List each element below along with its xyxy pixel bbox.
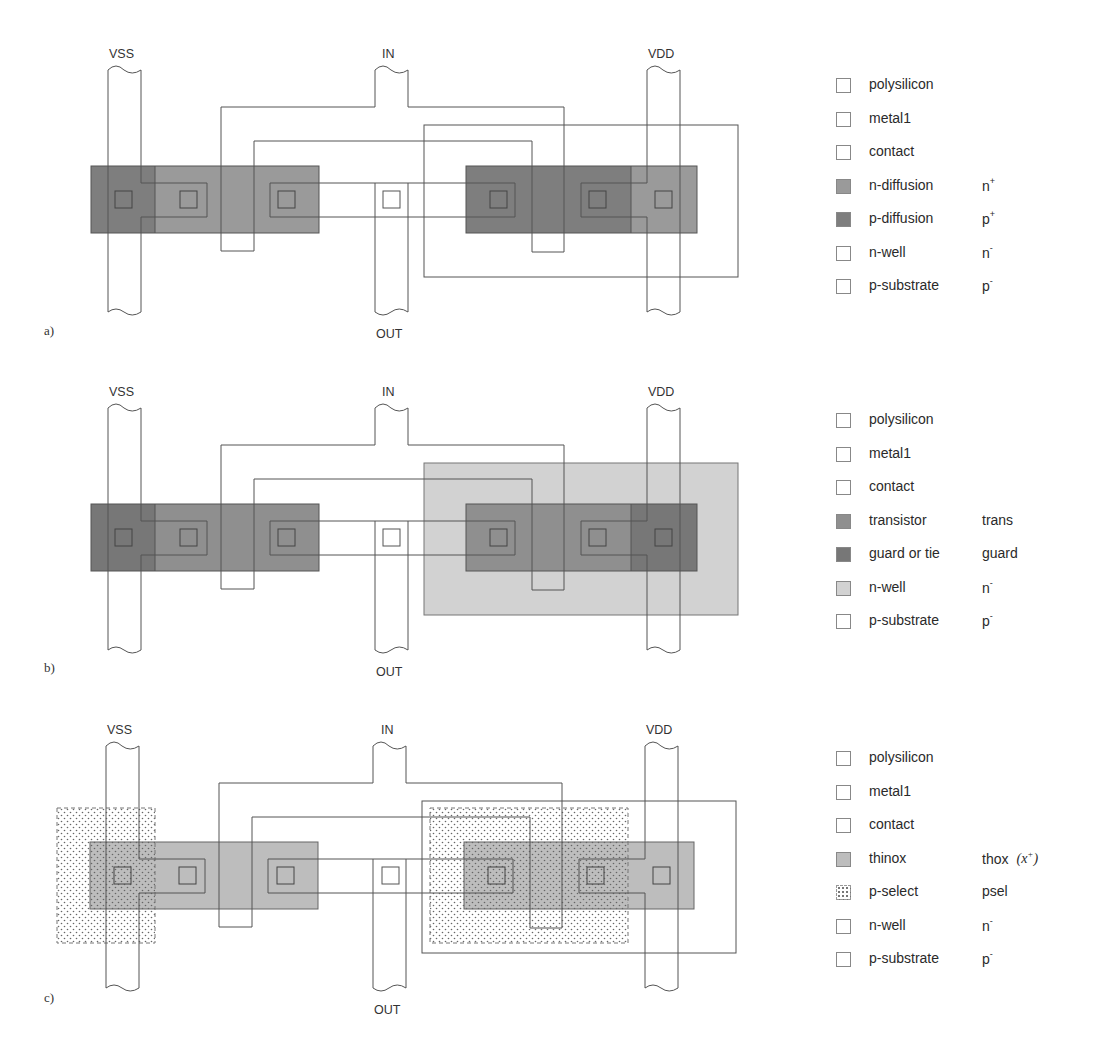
vdd-label: VDD [648, 385, 674, 399]
legend-name: p-substrate [869, 950, 939, 966]
vdd-label: VDD [648, 47, 674, 61]
in-label: IN [382, 47, 395, 61]
legend-abbreviation: trans [982, 512, 1013, 528]
legend-abbreviation: p- [982, 612, 993, 629]
legend-item-contact: contact [836, 816, 1096, 836]
out-label: OUT [376, 327, 403, 338]
legend-name: polysilicon [869, 411, 934, 427]
legend-swatch [836, 514, 851, 529]
legend-abbreviation: n- [982, 917, 993, 934]
legend-swatch [836, 246, 851, 261]
legend-item-metal1: metal1 [836, 445, 1096, 465]
panel-c: VSS IN VDD OUT c) polysiliconmetal1conta… [0, 676, 1103, 1014]
legend-name: p-substrate [869, 277, 939, 293]
legend-name: p-select [869, 883, 918, 899]
legend-abbreviation: n- [982, 244, 993, 261]
legend-item-p-diffusion: p-diffusionp+ [836, 210, 1096, 230]
legend-swatch [836, 447, 851, 462]
legend-item-n-well: n-welln- [836, 244, 1096, 264]
out-label: OUT [374, 1003, 401, 1014]
legend-name: polysilicon [869, 76, 934, 92]
legend-abbreviation: thox(x+) [982, 850, 1038, 868]
legend-swatch [836, 919, 851, 934]
legend-name: p-diffusion [869, 210, 933, 226]
legend-name: contact [869, 816, 914, 832]
p-select-right [430, 808, 628, 943]
legend-item-p-substrate: p-substratep- [836, 277, 1096, 297]
layout-diagram-c: VSS IN VDD OUT [0, 676, 800, 1014]
legend-name: metal1 [869, 783, 911, 799]
legend-abbreviation: guard [982, 545, 1018, 561]
guard-right [631, 504, 697, 571]
legend-name: n-well [869, 579, 906, 595]
panel-a: VSS IN VDD OUT a) polysiliconmetal1conta… [0, 0, 1103, 338]
legend-swatch [836, 547, 851, 562]
legend-abbreviation: p- [982, 950, 993, 967]
legend-item-contact: contact [836, 478, 1096, 498]
legend-item-p-substrate: p-substratep- [836, 612, 1096, 632]
contact [383, 529, 400, 546]
legend-item-n-well: n-welln- [836, 917, 1096, 937]
legend-abbreviation: n- [982, 579, 993, 596]
legend-item-n-well: n-welln- [836, 579, 1096, 599]
legend-swatch [836, 112, 851, 127]
legend-swatch [836, 212, 851, 227]
in-label: IN [382, 385, 395, 399]
contact [382, 867, 399, 884]
legend-item-thinox: thinoxthox(x+) [836, 850, 1096, 870]
p-diffusion-tie-left [91, 166, 155, 233]
legend-abbreviation: p- [982, 277, 993, 294]
legend-swatch [836, 614, 851, 629]
legend-item-polysilicon: polysilicon [836, 749, 1096, 769]
legend-swatch [836, 751, 851, 766]
legend-item-metal1: metal1 [836, 783, 1096, 803]
legend-swatch [836, 581, 851, 596]
in-label: IN [381, 723, 394, 737]
legend-item-n-diffusion: n-diffusionn+ [836, 177, 1096, 197]
legend-name: thinox [869, 850, 906, 866]
contact [383, 191, 400, 208]
legend-swatch [836, 818, 851, 833]
legend-name: metal1 [869, 445, 911, 461]
guard-left [91, 504, 155, 571]
legend-item-p-substrate: p-substratep- [836, 950, 1096, 970]
panel-label-c: c) [44, 990, 54, 1006]
legend-swatch [836, 78, 851, 93]
legend-swatch [836, 413, 851, 428]
legend-item-polysilicon: polysilicon [836, 411, 1096, 431]
legend-abbreviation: p+ [982, 210, 995, 227]
legend-item-polysilicon: polysilicon [836, 76, 1096, 96]
vdd-label: VDD [646, 723, 672, 737]
legend-item-transistor: transistortrans [836, 512, 1096, 532]
legend-item-contact: contact [836, 143, 1096, 163]
legend-name: polysilicon [869, 749, 934, 765]
panel-label-b: b) [44, 660, 55, 676]
legend-abbreviation: psel [982, 883, 1008, 899]
legend-name: contact [869, 143, 914, 159]
vss-label: VSS [107, 723, 132, 737]
legend-name: n-diffusion [869, 177, 933, 193]
panel-label-a: a) [44, 323, 54, 339]
legend-item-metal1: metal1 [836, 110, 1096, 130]
legend-item-p-select: p-selectpsel [836, 883, 1096, 903]
legend-swatch [836, 952, 851, 967]
panel-b: VSS IN VDD OUT b) polysiliconmetal1conta… [0, 338, 1103, 676]
vss-label: VSS [109, 47, 134, 61]
legend-name: metal1 [869, 110, 911, 126]
legend-swatch [836, 852, 851, 867]
legend-swatch [836, 279, 851, 294]
legend-name: n-well [869, 917, 906, 933]
legend-swatch [836, 885, 851, 900]
layout-diagram-a: VSS IN VDD OUT [0, 0, 800, 338]
legend-name: p-substrate [869, 612, 939, 628]
n-diffusion-tie-right [631, 166, 697, 233]
legend-swatch [836, 145, 851, 160]
legend-abbreviation: n+ [982, 177, 995, 194]
legend-name: guard or tie [869, 545, 940, 561]
legend-name: contact [869, 478, 914, 494]
out-label: OUT [376, 665, 403, 676]
legend-item-guard-or-tie: guard or tieguard [836, 545, 1096, 565]
legend-swatch [836, 785, 851, 800]
layout-diagram-b: VSS IN VDD OUT [0, 338, 800, 676]
legend-swatch [836, 480, 851, 495]
